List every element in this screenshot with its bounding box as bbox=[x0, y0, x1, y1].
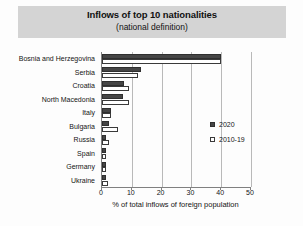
x-axis-title: % of total inflows of foreign population bbox=[101, 200, 250, 209]
bar-2020 bbox=[102, 175, 106, 180]
x-tick-label: 30 bbox=[186, 189, 194, 196]
bar-2020 bbox=[102, 148, 106, 153]
bar-2020 bbox=[102, 81, 124, 86]
bar-2020 bbox=[102, 162, 106, 167]
category-label: Italy bbox=[82, 106, 95, 120]
bar-group bbox=[102, 147, 251, 161]
bar-group bbox=[102, 174, 251, 188]
bar-2010-19 bbox=[102, 167, 106, 172]
x-tick-label: 20 bbox=[157, 189, 165, 196]
category-label: Croatia bbox=[72, 79, 95, 93]
bar-2020 bbox=[102, 67, 141, 72]
legend-item[interactable]: 2020 bbox=[210, 118, 270, 130]
category-label: Russia bbox=[74, 133, 95, 147]
bar-2010-19 bbox=[102, 127, 118, 132]
category-label: Bosnia and Herzegovina bbox=[19, 52, 95, 66]
bar-group bbox=[102, 66, 251, 80]
filled-square-icon bbox=[210, 122, 215, 127]
category-label: Spain bbox=[77, 147, 95, 161]
bar-group bbox=[102, 160, 251, 174]
bar-2020 bbox=[102, 94, 123, 99]
bar-2010-19 bbox=[102, 59, 221, 64]
bar-2010-19 bbox=[102, 100, 129, 105]
category-label: Ukraine bbox=[71, 174, 95, 188]
bar-group bbox=[102, 93, 251, 107]
category-label: North Macedonia bbox=[42, 93, 95, 107]
bar-2010-19 bbox=[102, 86, 129, 91]
bar-group bbox=[102, 52, 251, 66]
x-tick-label: 10 bbox=[127, 189, 135, 196]
chart-legend: 20202010-19 bbox=[210, 118, 270, 148]
hollow-square-icon bbox=[210, 137, 215, 142]
bar-2010-19 bbox=[102, 73, 138, 78]
chart-container: Inflows of top 10 nationalities (nationa… bbox=[0, 0, 303, 226]
chart-title: Inflows of top 10 nationalities bbox=[18, 8, 286, 21]
bar-2010-19 bbox=[102, 154, 106, 159]
legend-label: 2020 bbox=[219, 121, 235, 128]
legend-item[interactable]: 2010-19 bbox=[210, 133, 270, 145]
category-label: Bulgaria bbox=[69, 120, 95, 134]
category-label: Serbia bbox=[75, 66, 95, 80]
bar-2020 bbox=[102, 108, 111, 113]
bar-2020 bbox=[102, 121, 109, 126]
legend-label: 2010-19 bbox=[219, 136, 245, 143]
bar-2020 bbox=[102, 135, 106, 140]
chart-title-banner: Inflows of top 10 nationalities (nationa… bbox=[18, 6, 286, 38]
bar-2010-19 bbox=[102, 113, 111, 118]
category-label: Germany bbox=[66, 160, 95, 174]
category-axis-labels: Bosnia and HerzegovinaSerbiaCroatiaNorth… bbox=[2, 52, 98, 187]
bar-2010-19 bbox=[102, 140, 109, 145]
bar-group bbox=[102, 79, 251, 93]
chart-subtitle: (national definition) bbox=[18, 21, 286, 34]
bar-2010-19 bbox=[102, 181, 108, 186]
x-tick-label: 0 bbox=[99, 189, 103, 196]
x-tick-label: 50 bbox=[246, 189, 254, 196]
x-tick-label: 40 bbox=[216, 189, 224, 196]
bar-2020 bbox=[102, 54, 221, 59]
